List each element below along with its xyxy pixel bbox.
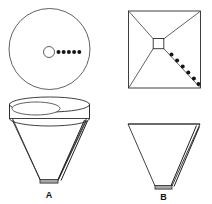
outlet-bar: [40, 180, 58, 184]
center-square-outline: [153, 39, 164, 49]
dot-marker: [77, 50, 81, 54]
technical-diagram-figure: A B: [0, 0, 212, 204]
center-hole-circle: [44, 47, 55, 58]
circular-top-view-panel: [9, 9, 90, 90]
dot-marker: [175, 59, 179, 63]
dot-marker: [192, 77, 196, 81]
dot-marker: [186, 71, 190, 75]
dot-marker: [62, 50, 66, 54]
inner-cavity-ellipse: [12, 102, 60, 115]
dot-marker: [181, 65, 185, 69]
caption-label-a: A: [46, 190, 53, 200]
dot-marker: [67, 50, 71, 54]
caption-label-b: B: [160, 192, 167, 202]
dot-marker: [72, 50, 76, 54]
diagram-canvas: A B: [0, 0, 212, 204]
dot-marker: [57, 50, 61, 54]
square-top-view-panel: [129, 11, 201, 88]
outlet-bar: [155, 186, 172, 190]
dot-marker: [197, 82, 201, 86]
dot-marker: [170, 53, 174, 57]
